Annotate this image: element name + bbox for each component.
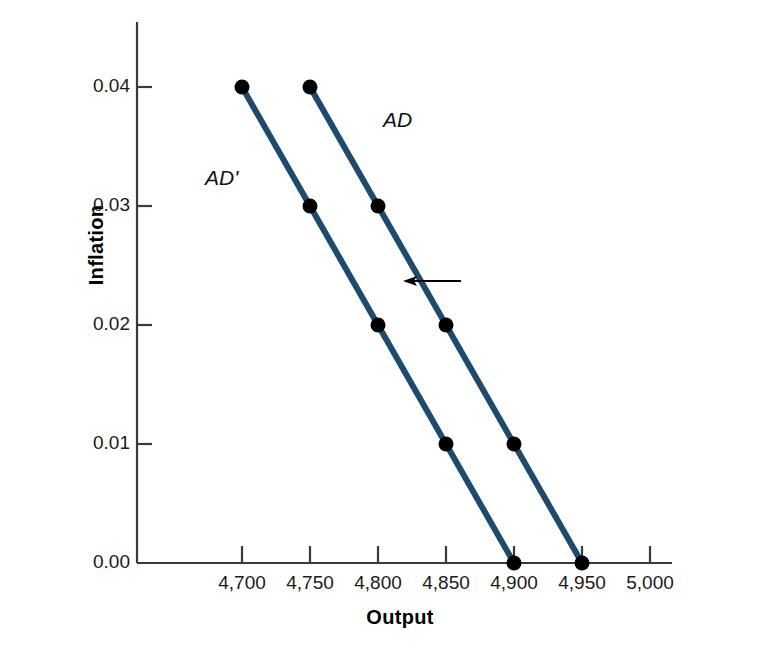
ad-shift-chart: Inflation Output 0.00 0.01 0.02 0.03 0.0… <box>0 0 773 663</box>
plot-area <box>0 0 773 663</box>
leftward-shift-arrow-icon <box>403 276 461 286</box>
y-axis-ticks <box>137 87 152 444</box>
